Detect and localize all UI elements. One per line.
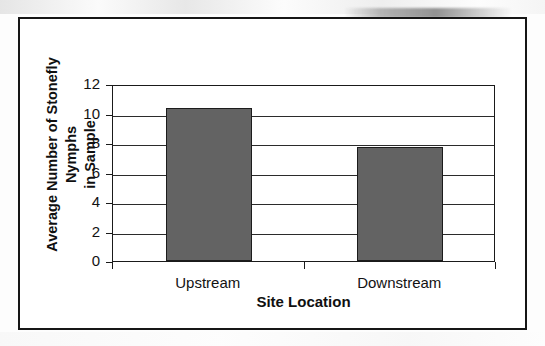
x-tick-1 [304, 262, 305, 269]
x-tick-0 [112, 262, 113, 269]
y-axis-title-line-2: in Sample [81, 40, 100, 270]
y-axis-title-line-1: Average Number of Stonefly Nymphs [44, 57, 79, 251]
chart-outer-border: 024681012 UpstreamDownstream Site Locati… [18, 17, 527, 330]
x-tick-2 [495, 262, 496, 269]
figure-container: 024681012 UpstreamDownstream Site Locati… [0, 0, 545, 346]
x-axis-title: Site Location [112, 293, 495, 310]
bar-chart: 024681012 UpstreamDownstream Site Locati… [20, 19, 529, 332]
y-axis-title: Average Number of Stonefly Nymphs in Sam… [43, 40, 100, 270]
x-category-label-upstream: Upstream [112, 274, 304, 291]
x-category-label-downstream: Downstream [304, 274, 496, 291]
bar-upstream [166, 108, 252, 261]
bar-downstream [357, 147, 443, 261]
scan-noise-top [0, 0, 545, 14]
scan-noise-bottom [0, 332, 545, 346]
plot-area [112, 85, 495, 262]
